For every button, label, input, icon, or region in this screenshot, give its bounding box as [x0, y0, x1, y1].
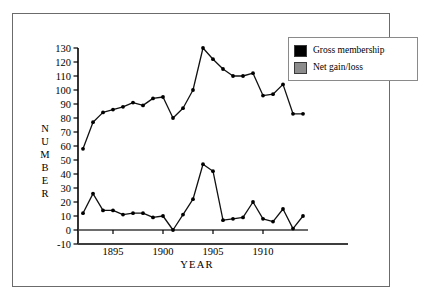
series-line-net-gain-loss	[83, 164, 303, 230]
data-point-net-gain-loss-1898	[141, 211, 145, 215]
data-point-gross-membership-1905	[211, 57, 215, 61]
y-axis-title-letter-B: B	[41, 162, 48, 173]
data-point-net-gain-loss-1905	[211, 169, 215, 173]
y-tick-label-110: 110	[56, 71, 71, 82]
y-tick-label-70: 70	[61, 127, 72, 138]
y-tick-label-0: 0	[66, 225, 71, 236]
x-axis-title: YEAR	[180, 259, 213, 270]
y-tick-label-40: 40	[61, 169, 72, 180]
data-point-gross-membership-1902	[181, 106, 185, 110]
chart-legend: Gross membership Net gain/loss	[288, 37, 418, 81]
y-tick-label-90: 90	[61, 99, 72, 110]
data-point-net-gain-loss-1895	[111, 209, 115, 213]
data-point-gross-membership-1895	[111, 108, 115, 112]
y-tick-label-60: 60	[61, 141, 72, 152]
y-axis-title-letter-U: U	[41, 136, 49, 147]
data-point-gross-membership-1897	[131, 101, 135, 105]
data-point-net-gain-loss-1909	[251, 200, 255, 204]
y-tick-label-50: 50	[61, 155, 72, 166]
series-line-gross-membership	[83, 48, 303, 149]
data-point-net-gain-loss-1914	[301, 214, 305, 218]
y-tick-label-120: 120	[55, 57, 71, 68]
data-point-net-gain-loss-1899	[151, 216, 155, 220]
data-point-net-gain-loss-1897	[131, 211, 135, 215]
data-point-net-gain-loss-1910	[261, 217, 265, 221]
y-tick-label-30: 30	[61, 183, 72, 194]
data-point-net-gain-loss-1912	[281, 207, 285, 211]
data-point-gross-membership-1914	[301, 112, 305, 116]
data-point-gross-membership-1911	[271, 92, 275, 96]
data-point-net-gain-loss-1896	[121, 213, 125, 217]
y-tick-label-10: 10	[61, 211, 72, 222]
x-tick-label-1900: 1900	[153, 246, 174, 257]
data-point-gross-membership-1900	[161, 95, 165, 99]
legend-swatch-net-gain-loss	[294, 62, 307, 74]
data-point-gross-membership-1908	[241, 74, 245, 78]
legend-swatch-gross-membership	[294, 45, 307, 57]
data-point-net-gain-loss-1893	[91, 192, 95, 196]
data-point-net-gain-loss-1903	[191, 197, 195, 201]
x-tick-label-1895: 1895	[103, 246, 124, 257]
data-point-net-gain-loss-1911	[271, 220, 275, 224]
data-point-gross-membership-1904	[201, 46, 205, 50]
data-point-net-gain-loss-1894	[101, 209, 105, 213]
y-axis-title-letter-N: N	[41, 123, 49, 134]
y-tick-label-130: 130	[55, 43, 71, 54]
legend-label-net-gain-loss: Net gain/loss	[313, 62, 363, 73]
data-point-net-gain-loss-1907	[231, 217, 235, 221]
data-point-net-gain-loss-1913	[291, 227, 295, 231]
y-tick-label-80: 80	[61, 113, 72, 124]
legend-item-gross-membership: Gross membership	[294, 42, 412, 59]
data-point-net-gain-loss-1902	[181, 213, 185, 217]
data-point-net-gain-loss-1900	[161, 214, 165, 218]
data-point-gross-membership-1910	[261, 94, 265, 98]
data-point-net-gain-loss-1892	[81, 211, 85, 215]
y-tick-label-100: 100	[55, 85, 71, 96]
data-point-net-gain-loss-1906	[221, 218, 225, 222]
y-tick-label--10: -10	[57, 239, 71, 250]
data-point-gross-membership-1907	[231, 74, 235, 78]
data-point-gross-membership-1893	[91, 120, 95, 124]
data-point-gross-membership-1913	[291, 112, 295, 116]
legend-label-gross-membership: Gross membership	[313, 45, 385, 56]
data-point-gross-membership-1901	[171, 116, 175, 120]
data-point-gross-membership-1906	[221, 67, 225, 71]
data-point-gross-membership-1892	[81, 147, 85, 151]
data-point-gross-membership-1909	[251, 71, 255, 75]
data-point-net-gain-loss-1901	[171, 228, 175, 232]
data-point-gross-membership-1898	[141, 104, 145, 108]
y-axis-title-letter-M: M	[40, 149, 50, 160]
chart-figure: 1301201101009080706050403020100-10189519…	[0, 0, 425, 302]
x-tick-label-1910: 1910	[253, 246, 274, 257]
y-axis-title-letter-R: R	[41, 188, 48, 199]
x-tick-label-1905: 1905	[203, 246, 224, 257]
data-point-gross-membership-1903	[191, 88, 195, 92]
y-tick-label-20: 20	[61, 197, 72, 208]
data-point-net-gain-loss-1904	[201, 162, 205, 166]
data-point-gross-membership-1899	[151, 97, 155, 101]
data-point-net-gain-loss-1908	[241, 216, 245, 220]
y-axis-title-letter-E: E	[42, 175, 48, 186]
legend-item-net-gain-loss: Net gain/loss	[294, 59, 412, 76]
data-point-gross-membership-1894	[101, 111, 105, 115]
data-point-gross-membership-1912	[281, 83, 285, 87]
data-point-gross-membership-1896	[121, 105, 125, 109]
